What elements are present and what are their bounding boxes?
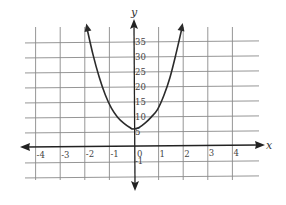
y-tick-label: 10: [135, 112, 146, 122]
x-tick-label: -1: [110, 149, 118, 159]
x-tick-label: -2: [86, 149, 94, 159]
y-axis-label: y: [130, 6, 138, 19]
y-tick-label: 30: [135, 52, 146, 62]
x-axis-left-arrow-icon: [20, 143, 30, 151]
x-tick-label: 1: [160, 149, 165, 159]
x-tick-label: 3: [209, 148, 214, 158]
curve-right-arrow-icon: [178, 23, 185, 32]
x-tick-label: -4: [37, 150, 45, 160]
x-tick-label: 4: [233, 148, 238, 158]
x-axis-right-arrow-icon: [255, 141, 265, 149]
x-tick-label: -3: [61, 150, 69, 160]
x-axis-label: x: [266, 139, 273, 152]
curve-left-arrow-icon: [85, 23, 92, 32]
y-tick-label: -1: [135, 156, 143, 166]
x-axis: [26, 145, 258, 147]
y-tick-label: 15: [135, 97, 146, 107]
function-graph: -4-3-2-101234-15101520253035 x y: [0, 0, 286, 205]
y-tick-label: 20: [135, 82, 146, 92]
y-tick-label: 35: [135, 37, 146, 47]
y-tick-label: 25: [135, 67, 146, 77]
x-tick-label: 2: [184, 149, 189, 159]
